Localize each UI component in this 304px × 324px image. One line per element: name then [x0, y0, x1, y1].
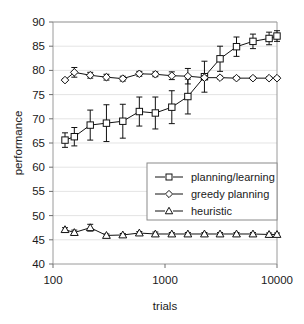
marker-square	[250, 38, 256, 44]
marker-square	[266, 35, 272, 41]
x-axis-ticks: 100100010000	[43, 264, 293, 286]
x-tick-label: 10000	[261, 274, 293, 286]
y-tick-label: 75	[32, 89, 45, 101]
marker-square	[233, 43, 239, 49]
x-axis-title: trials	[153, 300, 178, 312]
y-tick-label: 45	[32, 234, 45, 246]
marker-diamond	[233, 74, 241, 82]
y-axis-ticks: 4045505560657075808590	[32, 16, 53, 270]
marker-square	[274, 33, 280, 39]
chart-legend: planning/learninggreedy planningheuristi…	[147, 163, 277, 220]
marker-square	[103, 120, 109, 126]
series-heuristic	[61, 224, 281, 239]
marker-square	[217, 56, 223, 62]
marker-triangle	[61, 226, 69, 233]
x-tick-label: 1000	[152, 274, 178, 286]
chart-container: 4045505560657075808590 100100010000 perf…	[0, 0, 304, 324]
legend-label: greedy planning	[191, 188, 269, 200]
legend-label: planning/learning	[191, 171, 275, 183]
y-tick-label: 70	[32, 113, 45, 125]
y-tick-label: 55	[32, 185, 45, 197]
series-polyline	[65, 36, 277, 140]
legend-label: heuristic	[191, 205, 232, 217]
y-tick-label: 85	[32, 40, 45, 52]
marker-square	[87, 122, 93, 128]
y-tick-label: 40	[32, 258, 45, 270]
marker-square	[169, 104, 175, 110]
y-tick-label: 80	[32, 64, 45, 76]
marker-triangle	[135, 229, 143, 236]
marker-square	[71, 134, 77, 140]
y-tick-label: 90	[32, 16, 45, 28]
marker-diamond	[273, 74, 281, 82]
performance-vs-trials-chart: 4045505560657075808590 100100010000 perf…	[0, 0, 304, 324]
series-greedy-planning	[61, 67, 281, 83]
y-tick-label: 60	[32, 161, 45, 173]
marker-diamond	[265, 74, 273, 82]
marker-square	[185, 93, 191, 99]
marker-diamond	[249, 74, 257, 82]
series-planning-learning	[62, 31, 280, 148]
marker-square	[120, 118, 126, 124]
marker-diamond	[216, 74, 224, 82]
marker-square	[152, 110, 158, 116]
x-tick-label: 100	[43, 274, 62, 286]
y-axis-title: performance	[12, 111, 24, 176]
marker-square	[166, 174, 172, 180]
marker-square	[62, 137, 68, 143]
marker-diamond	[168, 72, 176, 80]
marker-square	[136, 108, 142, 114]
marker-triangle	[86, 224, 94, 231]
y-tick-label: 50	[32, 210, 45, 222]
y-tick-label: 65	[32, 137, 45, 149]
